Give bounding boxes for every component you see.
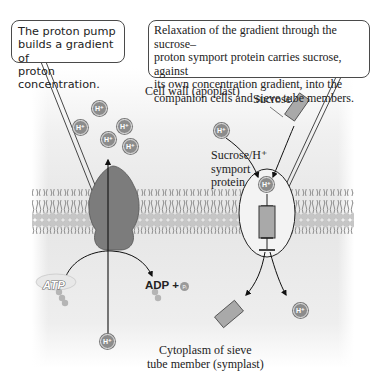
proton-ion: H⁺ bbox=[293, 303, 308, 318]
label-line: Sucrose/H⁺ bbox=[211, 149, 267, 163]
sucrose-label: Sucrose bbox=[253, 93, 291, 106]
proton-ion: H⁺ bbox=[123, 139, 138, 154]
label-line: tube member (symplast) bbox=[147, 358, 264, 372]
lipid-bilayer bbox=[32, 189, 354, 234]
proton-ion: H⁺ bbox=[92, 101, 107, 116]
inorganic-phosphate: Pᵢ bbox=[180, 282, 189, 291]
proton-ion: H⁺ bbox=[214, 123, 229, 138]
callout-symport: Relaxation of the gradient through the s… bbox=[148, 20, 370, 78]
proton-ion: H⁺ bbox=[100, 334, 115, 349]
callout-line: builds a gradient of bbox=[18, 38, 118, 65]
adp-label: ADP + bbox=[145, 279, 179, 292]
atp-label: ATP bbox=[43, 279, 65, 292]
label-line: protein bbox=[211, 176, 267, 190]
callout-line: proton concentration. bbox=[18, 65, 118, 92]
callout-proton-pump: The proton pump builds a gradient of pro… bbox=[11, 20, 125, 63]
label-line: symport bbox=[211, 163, 267, 177]
proton-ion: H⁺ bbox=[73, 120, 88, 135]
callout-line: The proton pump bbox=[18, 25, 118, 38]
cytoplasm-label: Cytoplasm of sieve tube member (symplast… bbox=[147, 344, 264, 371]
diagram: H⁺ H⁺ H⁺ H⁺ H⁺ H⁺ H⁺ H⁺ H⁺ The proton pu… bbox=[0, 0, 376, 383]
label-line: Cytoplasm of sieve bbox=[147, 344, 264, 358]
callout-line: Relaxation of the gradient through the s… bbox=[154, 24, 364, 51]
callout-line: proton symport protein carries sucrose, … bbox=[154, 51, 364, 78]
proton-ion: H⁺ bbox=[101, 132, 116, 147]
cell-wall-label: Cell wall (apoplast) bbox=[145, 85, 240, 98]
symport-protein-label: Sucrose/H⁺ symport protein bbox=[211, 149, 267, 190]
proton-ion: H⁺ bbox=[117, 119, 132, 134]
